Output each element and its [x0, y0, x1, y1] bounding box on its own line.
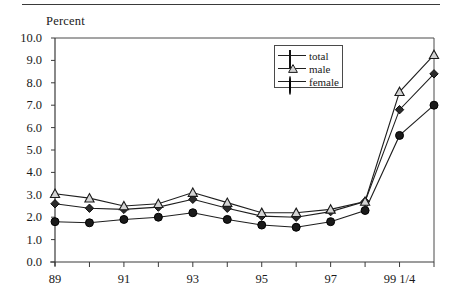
legend-marker-total [278, 50, 306, 61]
x-axis-tick-label: 89 [49, 272, 62, 287]
x-axis-tick-label: 97 [324, 272, 337, 287]
series-line-total [55, 74, 434, 217]
data-point-female [85, 219, 93, 227]
data-point-female [189, 209, 197, 217]
legend-item-female: female [278, 75, 339, 88]
data-point-female [154, 213, 162, 221]
series-line-male [55, 55, 434, 213]
legend-label-male: male [309, 63, 330, 75]
data-point-female [120, 215, 128, 223]
data-point-female [292, 223, 300, 231]
data-point-female [258, 221, 266, 229]
data-point-male [429, 50, 438, 58]
data-point-male [154, 199, 163, 207]
data-point-female [327, 218, 335, 226]
data-point-female [396, 131, 404, 139]
x-axis-tick-label: 91 [118, 272, 131, 287]
legend-item-male: male [278, 62, 330, 75]
data-point-male [188, 188, 197, 196]
data-point-total [51, 200, 59, 208]
data-point-male [50, 189, 59, 197]
legend-label-total: total [309, 50, 329, 62]
data-point-total [85, 204, 93, 212]
chart-figure: Percent 0.01.02.03.04.05.06.07.08.09.010… [0, 0, 451, 306]
legend-item-total: total [278, 49, 329, 62]
x-axis-tick-label: 93 [187, 272, 200, 287]
chart-legend: total male female [274, 45, 343, 88]
data-point-female [51, 218, 59, 226]
data-point-female [430, 101, 438, 109]
legend-marker-female [278, 76, 306, 87]
x-axis-tick-label: 95 [255, 272, 268, 287]
x-axis-tick-label: 99 1/4 [384, 272, 416, 287]
plot-canvas [0, 0, 451, 306]
data-point-female [223, 215, 231, 223]
legend-label-female: female [309, 76, 339, 88]
legend-marker-male [278, 63, 306, 74]
data-point-female [361, 206, 369, 214]
